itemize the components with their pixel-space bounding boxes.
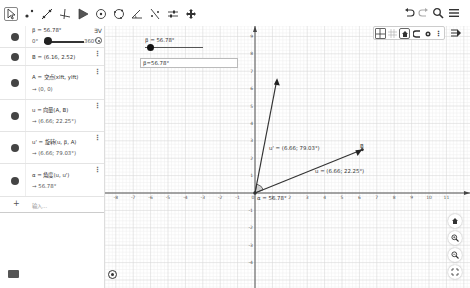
search-button[interactable] [431, 6, 445, 20]
slider-settings-button[interactable] [95, 37, 102, 44]
svg-text:6: 6 [250, 86, 253, 91]
definition-text[interactable]: u' = 旋转(u, β, A) [32, 138, 76, 146]
svg-text:8: 8 [393, 195, 396, 200]
visibility-toggle[interactable] [11, 112, 19, 120]
circle-three-points-button[interactable] [112, 7, 126, 21]
undo-button[interactable] [403, 6, 417, 20]
point-b-label: B [360, 143, 364, 149]
graphics-view[interactable]: -8-7-6-5-4-3-2-112345678910110 987654321… [105, 26, 470, 288]
algebra-row-vector-u-prime[interactable]: u' = 旋转(u, β, A) → (6.66; 79.03°) ⋮ [0, 132, 104, 164]
circle-three-points-icon [113, 8, 125, 20]
graphics-settings-button[interactable] [422, 28, 433, 39]
circle-tool-button[interactable] [94, 7, 108, 21]
svg-text:2: 2 [288, 195, 291, 200]
line-icon [41, 8, 53, 20]
svg-text:4: 4 [323, 195, 326, 200]
home-view-button[interactable] [448, 214, 462, 228]
svg-text:-8: -8 [114, 195, 119, 200]
visibility-toggle[interactable] [11, 79, 19, 87]
toggle-grid-button[interactable] [387, 28, 398, 39]
more-options-icon[interactable]: ⋮ [94, 102, 101, 110]
circle-center-icon [95, 8, 107, 20]
angle-tool-button[interactable] [130, 7, 144, 21]
definition-text[interactable]: α = 角度(u, u') [32, 171, 69, 179]
polygon-tool-button[interactable] [76, 7, 90, 21]
point-icon [23, 8, 35, 20]
undo-icon [404, 7, 416, 19]
zoom-in-icon [451, 234, 459, 242]
svg-text:5: 5 [250, 104, 253, 109]
visibility-toggle[interactable] [11, 53, 19, 61]
svg-text:-3: -3 [201, 195, 206, 200]
more-options-icon[interactable]: ⋮ [433, 28, 444, 39]
value-text: → (6.66; 79.03°) [32, 150, 76, 156]
svg-text:10: 10 [426, 195, 432, 200]
graphics-style-bar: ⋮ [373, 26, 445, 40]
svg-text:2: 2 [250, 156, 253, 161]
slider-label: β = 56.78° [32, 27, 62, 33]
slider-tool-button[interactable] [166, 7, 180, 21]
algebra-input-row[interactable]: + 输入... [0, 197, 104, 213]
perpendicular-tool-button[interactable] [58, 7, 72, 21]
svg-text:-5: -5 [166, 195, 171, 200]
search-icon [432, 7, 444, 19]
canvas-slider-handle[interactable] [147, 44, 154, 51]
polygon-icon [77, 8, 89, 20]
view-settings-button[interactable] [108, 270, 117, 279]
fullscreen-button[interactable] [448, 265, 462, 279]
svg-text:7: 7 [250, 69, 253, 74]
algebra-row-slider-beta[interactable]: β = 56.78° 0° 360° ∃V [0, 26, 104, 48]
toggle-style-bar-button[interactable] [449, 28, 463, 38]
fullscreen-icon [451, 268, 459, 276]
point-tool-button[interactable] [22, 7, 36, 21]
definition-text[interactable]: A = 交点(xlft, ylft) [32, 73, 78, 81]
visibility-toggle[interactable] [11, 177, 19, 185]
value-text: → 56.78° [32, 183, 56, 189]
more-options-icon[interactable]: ⋮ [94, 134, 101, 142]
svg-text:0: 0 [252, 195, 255, 200]
definition-text[interactable]: B = (6.16, 2.52) [32, 54, 75, 60]
move-tool-button[interactable] [4, 7, 18, 21]
keyboard-icon[interactable] [8, 270, 19, 278]
style-bar-toggle-icon [451, 29, 461, 37]
algebra-row-point-a[interactable]: A = 交点(xlft, ylft) → (0, 0) ⋮ [0, 66, 104, 100]
zoom-out-button[interactable] [448, 248, 462, 262]
canvas-slider-label: β = 56.78° [145, 37, 175, 43]
point-capturing-button[interactable] [411, 28, 422, 39]
svg-text:-2: -2 [249, 225, 254, 230]
svg-text:-1: -1 [235, 195, 240, 200]
svg-text:-7: -7 [131, 195, 136, 200]
redo-button[interactable] [416, 6, 430, 20]
cursor-arrow-icon [5, 8, 17, 20]
move-cross-icon [185, 8, 197, 20]
visibility-toggle[interactable] [11, 144, 19, 152]
algebra-row-angle-alpha[interactable]: α = 角度(u, u') → 56.78° ⋮ [0, 164, 104, 197]
svg-text:-4: -4 [249, 260, 254, 265]
move-graphics-tool-button[interactable] [184, 7, 198, 21]
more-options-icon[interactable]: ⋮ [94, 50, 101, 58]
canvas-input-box[interactable]: β=56.78° [140, 58, 238, 68]
x-axis-arrow-icon [464, 191, 470, 195]
svg-text:-6: -6 [148, 195, 153, 200]
svg-text:5: 5 [341, 195, 344, 200]
main-menu-button[interactable] [447, 6, 461, 20]
line-tool-button[interactable] [40, 7, 54, 21]
reflect-tool-button[interactable] [148, 7, 162, 21]
svg-text:3: 3 [306, 195, 309, 200]
toggle-axes-button[interactable] [375, 28, 386, 39]
standard-view-button[interactable] [399, 28, 410, 39]
algebra-row-point-b[interactable]: B = (6.16, 2.52) ⋮ [0, 48, 104, 66]
algebra-row-vector-u[interactable]: u = 向量(A, B) → (6.66; 22.25°) ⋮ [0, 100, 104, 132]
svg-text:-2: -2 [218, 195, 223, 200]
algebra-input[interactable]: 输入... [32, 202, 47, 210]
value-text: → (0, 0) [32, 86, 53, 92]
zoom-in-button[interactable] [448, 231, 462, 245]
sort-icon[interactable]: ∃V [94, 27, 102, 34]
more-options-icon[interactable]: ⋮ [94, 166, 101, 174]
redo-icon [417, 7, 429, 19]
slider-handle[interactable] [44, 37, 52, 45]
visibility-toggle[interactable] [11, 33, 19, 41]
definition-text[interactable]: u = 向量(A, B) [32, 106, 68, 114]
grid-icon [388, 29, 397, 38]
more-options-icon[interactable]: ⋮ [94, 68, 101, 76]
